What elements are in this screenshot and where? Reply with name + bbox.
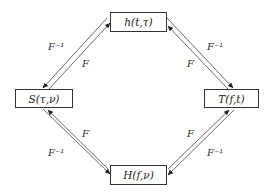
arrow-hf-to-t bbox=[168, 110, 229, 169]
node-s-tau-nu: S(τ,ν) bbox=[15, 89, 73, 108]
arrow-t-to-h bbox=[168, 26, 228, 89]
transform-diagram: h(t,τ) S(τ,ν) T(f,t) H(f,ν) F⁻¹ F F⁻¹ F … bbox=[0, 0, 272, 195]
arrow-h-to-s bbox=[43, 18, 107, 88]
arrow-t-to-hf bbox=[168, 110, 234, 175]
edge-bottom-right bbox=[168, 110, 234, 175]
node-t-f-t: T(f,t) bbox=[204, 89, 259, 108]
edge-bottom-left bbox=[43, 109, 110, 174]
arrow-hf-to-s bbox=[48, 110, 108, 169]
node-h-f-nu: H(f,ν) bbox=[110, 165, 167, 185]
label-bottom-right-outer: F⁻¹ bbox=[207, 147, 223, 158]
edge-top-right bbox=[167, 18, 233, 89]
node-h-t-tau: h(t,τ) bbox=[110, 12, 167, 32]
label-bottom-left-outer: F⁻¹ bbox=[48, 147, 64, 158]
arrow-s-to-hf bbox=[43, 109, 110, 174]
label-top-left-outer: F⁻¹ bbox=[48, 41, 64, 52]
label-top-left-inner: F bbox=[82, 58, 89, 69]
arrow-h-to-t bbox=[167, 18, 233, 88]
label-top-right-inner: F bbox=[187, 58, 194, 69]
edge-top-left bbox=[43, 18, 110, 89]
label-bottom-right-inner: F bbox=[187, 128, 194, 139]
label-bottom-left-inner: F bbox=[82, 128, 89, 139]
label-top-right-outer: F⁻¹ bbox=[207, 41, 223, 52]
arrow-s-to-h bbox=[49, 23, 110, 89]
